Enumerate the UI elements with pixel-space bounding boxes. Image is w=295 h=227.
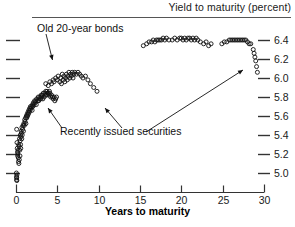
data-point (252, 51, 256, 55)
data-point (15, 127, 19, 131)
arrow-recent-right (146, 70, 243, 132)
data-point (88, 82, 92, 86)
data-point (92, 86, 96, 90)
data-point (254, 59, 258, 63)
x-tick-label: 30 (259, 194, 271, 206)
annotation-recent: Recently issued securities (60, 125, 181, 137)
x-tick-label: 10 (94, 194, 106, 206)
y-tick-label: 6.2 (274, 53, 289, 65)
x-tick-label: 20 (176, 194, 188, 206)
arrow-old-bonds (46, 34, 54, 60)
x-tick-label: 15 (135, 194, 147, 206)
y-tick-label: 5.6 (274, 110, 289, 122)
data-point (255, 65, 259, 69)
x-tick-label: 5 (55, 194, 61, 206)
data-point (251, 48, 255, 52)
data-point (86, 78, 90, 82)
y-tick-label: 5.4 (274, 129, 289, 141)
x-tick-label: 25 (218, 194, 230, 206)
y-tick-label: 6.0 (274, 72, 289, 84)
y-tick-label: 5.0 (274, 167, 289, 179)
data-point (253, 55, 257, 59)
y-tick-label: 6.4 (274, 34, 289, 46)
y-tick-label: 5.2 (274, 148, 289, 160)
data-point (95, 89, 99, 93)
y-tick-label: 5.8 (274, 91, 289, 103)
annotation-old-bonds: Old 20-year bonds (37, 22, 123, 34)
x-tick-label: 0 (14, 194, 20, 206)
chart-figure: Yield to maturity (percent) Years to mat… (0, 0, 295, 227)
data-point (255, 70, 259, 74)
scatter-plot-canvas (0, 0, 295, 227)
x-axis-title: Years to maturity (0, 205, 295, 217)
source-note (6, 220, 196, 225)
